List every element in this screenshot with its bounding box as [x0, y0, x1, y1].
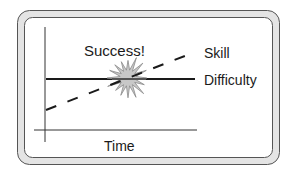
skill-label: Skill — [204, 45, 230, 61]
x-axis-label: Time — [104, 138, 135, 154]
diagram-canvas: Success! Skill Difficulty Time — [0, 0, 296, 175]
difficulty-label: Difficulty — [204, 72, 257, 88]
success-label: Success! — [84, 42, 145, 59]
